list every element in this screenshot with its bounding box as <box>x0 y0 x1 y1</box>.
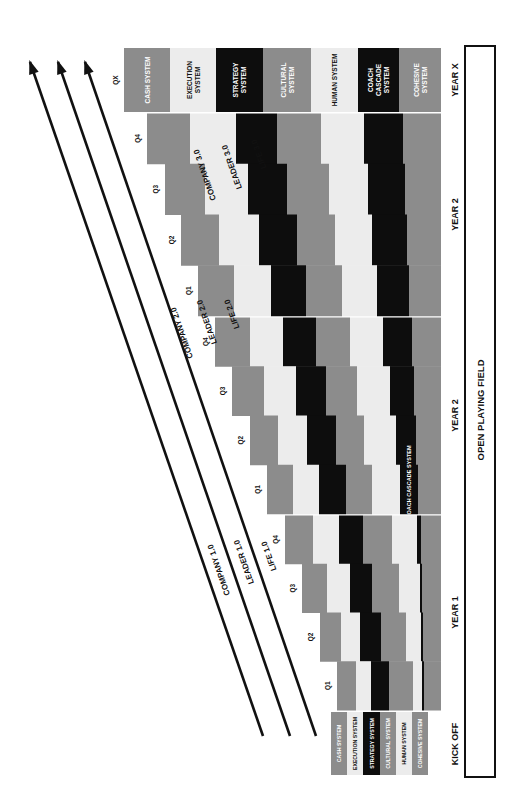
cultural-band-segment <box>336 416 364 466</box>
coach-band-segment <box>364 113 403 164</box>
coach-band-segment <box>390 366 414 416</box>
kickoff-legend: CASH SYSTEMEXECUTION SYSTEMSTRATEGY SYST… <box>331 712 428 775</box>
cultural-band-segment <box>363 515 392 564</box>
strategy-band-segment <box>350 564 372 613</box>
system-label: CULTURAL <box>280 63 287 98</box>
execution-band-segment <box>264 366 296 416</box>
system-label: SYSTEM <box>383 67 390 94</box>
human-band-segment <box>413 661 422 710</box>
system-label: SYSTEM <box>288 67 295 94</box>
arrowhead-icon <box>29 60 38 75</box>
strategy-band-segment <box>259 215 297 266</box>
human-band-segment <box>399 564 420 613</box>
coach-band-segment <box>420 564 422 613</box>
strategy-band-segment <box>307 416 336 466</box>
arrowhead-icon <box>57 60 66 75</box>
human-band-segment <box>321 113 364 164</box>
cultural-band-segment <box>326 366 357 416</box>
strategy-band-segment <box>296 366 326 416</box>
cohesive-band-segment <box>412 317 441 367</box>
system-label: COACH <box>367 68 374 92</box>
quarter-label: Q2 <box>307 632 315 641</box>
cash-band-segment <box>302 564 327 613</box>
quarter-label: Q2 <box>237 435 245 444</box>
execution-band-segment <box>234 265 271 316</box>
human-band-segment <box>329 164 368 215</box>
systems-roadmap-diagram: COACH CASCADE SYSTEM CASH SYSTEMEXECUTIO… <box>0 0 523 807</box>
human-band-segment <box>357 366 390 416</box>
quarter-label: Q3 <box>152 184 160 193</box>
quarter-label: Q4 <box>202 337 210 346</box>
cash-band-segment <box>181 215 219 266</box>
system-label: CASCADE <box>375 63 382 96</box>
human-band-segment <box>392 515 417 564</box>
system-label: SYSTEM <box>421 67 428 94</box>
quarter-label: Q1 <box>324 681 332 690</box>
human-band-segment <box>350 317 383 367</box>
kickoff-system-label: CASH SYSTEM <box>336 725 342 762</box>
year-label: YEAR 1 <box>450 596 460 629</box>
cohesive-band-segment <box>409 265 441 316</box>
human-band-segment <box>406 613 421 662</box>
coach-band-segment <box>372 215 407 266</box>
strategy-band-segment <box>319 465 346 515</box>
execution-band-segment <box>250 317 283 367</box>
kickoff-system-label: COHESIVE SYSTEM <box>417 719 423 769</box>
coach-band-segment <box>377 265 409 316</box>
strategy-band-segment <box>360 613 381 662</box>
year-x-section: CASH SYSTEMEXECUTIONSYSTEMSTRATEGYSYSTEM… <box>124 48 441 112</box>
cultural-band-segment <box>306 265 342 316</box>
human-band-segment <box>342 265 377 316</box>
year-section-1 <box>120 113 441 317</box>
quarter-label-qx: QX <box>112 75 120 85</box>
open-playing-field: OPEN PLAYING FIELD <box>465 46 495 777</box>
system-label: COHESIVE <box>413 63 420 97</box>
year-section-2: COACH CASCADE SYSTEM <box>120 317 441 519</box>
arrow-label: COMPANY 2.0 <box>169 306 195 360</box>
kickoff-system-label: CULTURAL SYSTEM <box>385 718 391 769</box>
cohesive-band-segment <box>421 515 441 564</box>
strategy-band-segment <box>248 164 287 215</box>
cash-band-segment <box>320 613 341 662</box>
execution-band-segment <box>356 661 371 710</box>
open-playing-field-label: OPEN PLAYING FIELD <box>475 359 486 460</box>
execution-band-segment <box>219 215 259 266</box>
coach-band-segment <box>383 317 412 367</box>
cultural-band-segment <box>316 317 350 367</box>
cohesive-band-segment <box>414 366 441 416</box>
system-label: EXECUTION <box>186 61 193 99</box>
quarter-label: Q1 <box>185 286 193 295</box>
cohesive-band-segment <box>418 465 441 515</box>
cash-band-segment <box>250 416 278 466</box>
strategy-band-segment <box>271 265 306 316</box>
cohesive-band-segment <box>416 416 441 466</box>
kickoff-system-label: STRATEGY SYSTEM <box>369 718 375 769</box>
cohesive-band-segment <box>403 113 441 164</box>
cohesive-band-segment <box>423 613 441 662</box>
arrow-label: COMPANY 1.0 <box>206 543 232 597</box>
arrowhead-icon <box>84 60 93 75</box>
cultural-band-segment <box>287 164 329 215</box>
cash-band-segment <box>232 366 264 416</box>
execution-band-segment <box>278 416 307 466</box>
system-label: STRATEGY <box>232 62 239 98</box>
cultural-band-segment <box>297 215 335 266</box>
cash-band-segment <box>267 465 293 515</box>
human-band-segment <box>335 215 372 266</box>
system-label: HUMAN SYSTEM <box>331 54 338 107</box>
coach-band-segment <box>368 164 405 215</box>
kickoff-system-label: HUMAN SYSTEM <box>401 722 407 764</box>
quarter-label: Q2 <box>168 235 176 244</box>
cohesive-band-segment <box>407 215 441 266</box>
strategy-band-segment <box>283 317 316 367</box>
quarter-label: Q4 <box>134 134 142 143</box>
cash-band-segment <box>337 661 356 710</box>
execution-band-segment <box>327 564 350 613</box>
execution-band-segment <box>293 465 319 515</box>
year-label: YEAR 2 <box>450 399 460 432</box>
human-band-segment <box>372 465 400 515</box>
system-label: CASH SYSTEM <box>144 57 151 104</box>
kickoff-label: KICK OFF <box>450 722 460 765</box>
human-band-segment <box>364 416 396 466</box>
quarter-label: Q3 <box>219 386 227 395</box>
